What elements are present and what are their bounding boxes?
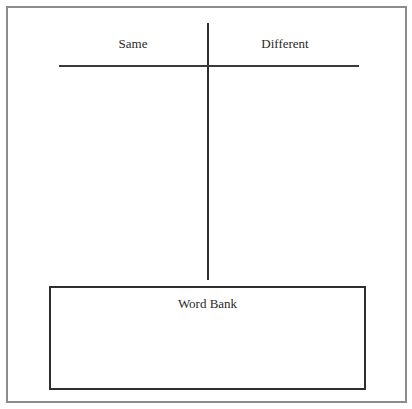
t-chart-vertical-divider: [207, 23, 209, 280]
t-chart-horizontal-divider: [59, 65, 359, 67]
column-header-different: Different: [256, 36, 314, 52]
word-bank-title: Word Bank: [51, 296, 364, 312]
word-bank-box: Word Bank: [49, 286, 366, 390]
column-header-same: Same: [108, 36, 158, 52]
